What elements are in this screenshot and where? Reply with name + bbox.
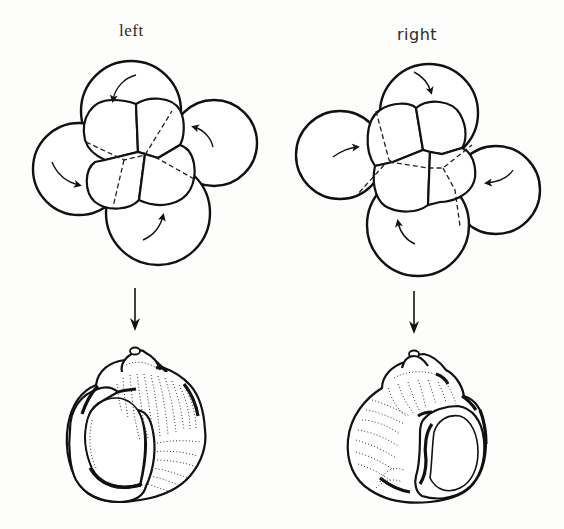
right-embryo — [296, 64, 540, 276]
right-shell — [348, 351, 486, 503]
down-arrow-icon — [130, 288, 140, 331]
left-shell — [67, 348, 206, 503]
right-micromere-top-right — [416, 102, 466, 154]
down-arrow-icon — [409, 291, 419, 334]
left-micromere-top-left — [84, 100, 138, 160]
left-embryo — [33, 61, 257, 265]
coiling-diagram — [0, 0, 564, 529]
